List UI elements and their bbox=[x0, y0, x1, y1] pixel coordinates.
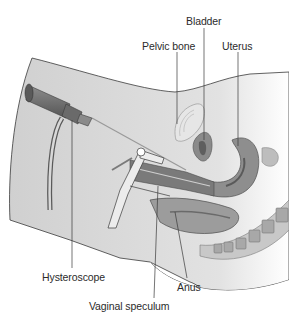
label-anus: Anus bbox=[177, 281, 201, 293]
label-hysteroscope: Hysteroscope bbox=[42, 271, 105, 283]
label-uterus: Uterus bbox=[222, 40, 252, 52]
label-vaginal-speculum: Vaginal speculum bbox=[89, 300, 170, 312]
label-bladder: Bladder bbox=[186, 15, 222, 27]
label-pelvic-bone: Pelvic bone bbox=[142, 40, 195, 52]
